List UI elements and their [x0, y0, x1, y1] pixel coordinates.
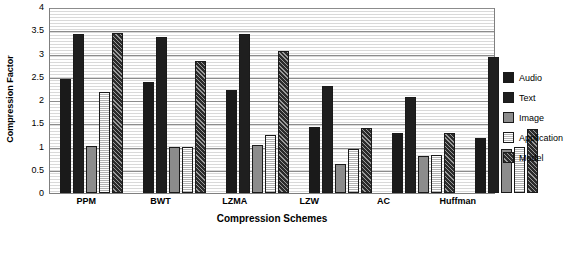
- bar[interactable]: [278, 51, 289, 193]
- bar[interactable]: [392, 133, 403, 193]
- x-tick-label: BWT: [124, 196, 198, 206]
- bar[interactable]: [169, 147, 180, 194]
- legend-item[interactable]: Text: [503, 92, 571, 103]
- x-tick-label: Huffman: [421, 196, 495, 206]
- bar-group: [216, 9, 299, 193]
- bar[interactable]: [431, 155, 442, 193]
- bar[interactable]: [309, 127, 320, 193]
- y-tick-label: 4: [12, 2, 44, 12]
- legend: AudioTextImageApplicationModel: [503, 72, 571, 172]
- legend-item[interactable]: Audio: [503, 72, 571, 83]
- bar[interactable]: [361, 128, 372, 193]
- y-tick-label: 0.5: [12, 165, 44, 175]
- chart-root: Compression Factor 00.511.522.533.54 PPM…: [0, 0, 573, 253]
- bar[interactable]: [86, 146, 97, 193]
- bar[interactable]: [182, 147, 193, 194]
- legend-label: Text: [519, 93, 536, 103]
- y-tick-label: 3: [12, 49, 44, 59]
- bar[interactable]: [73, 34, 84, 193]
- bar-group: [382, 9, 465, 193]
- bar[interactable]: [226, 90, 237, 193]
- legend-item[interactable]: Application: [503, 132, 571, 143]
- y-tick-label: 3.5: [12, 25, 44, 35]
- legend-item[interactable]: Model: [503, 152, 571, 163]
- legend-label: Application: [519, 133, 563, 143]
- x-axis-title: Compression Schemes: [49, 213, 495, 224]
- bar[interactable]: [475, 138, 486, 193]
- legend-label: Image: [519, 113, 544, 123]
- y-tick-label: 1.5: [12, 118, 44, 128]
- x-tick-label: LZMA: [198, 196, 272, 206]
- plot-background: [50, 9, 494, 193]
- bar[interactable]: [156, 37, 167, 193]
- bar[interactable]: [195, 61, 206, 193]
- y-tick-label: 1: [12, 142, 44, 152]
- bar[interactable]: [488, 57, 499, 193]
- x-tick-label: LZW: [272, 196, 346, 206]
- legend-item[interactable]: Image: [503, 112, 571, 123]
- bar[interactable]: [239, 34, 250, 193]
- bar-group: [299, 9, 382, 193]
- legend-swatch: [503, 72, 514, 83]
- bar[interactable]: [418, 156, 429, 193]
- legend-swatch: [503, 92, 514, 103]
- bar[interactable]: [112, 33, 123, 193]
- x-tick-label: PPM: [49, 196, 123, 206]
- plot-area: [49, 8, 495, 194]
- legend-label: Audio: [519, 73, 542, 83]
- bar-group: [133, 9, 216, 193]
- y-tick-label: 0: [12, 188, 44, 198]
- bar-group: [50, 9, 133, 193]
- legend-swatch: [503, 152, 514, 163]
- bar[interactable]: [265, 135, 276, 193]
- legend-swatch: [503, 112, 514, 123]
- bar[interactable]: [60, 79, 71, 193]
- bar[interactable]: [252, 145, 263, 193]
- bar[interactable]: [405, 97, 416, 193]
- bar[interactable]: [335, 164, 346, 193]
- bar[interactable]: [322, 86, 333, 193]
- legend-label: Model: [519, 153, 544, 163]
- bar-groups: [50, 9, 494, 193]
- y-tick-label: 2.5: [12, 72, 44, 82]
- bar[interactable]: [348, 149, 359, 193]
- bar[interactable]: [143, 82, 154, 193]
- legend-swatch: [503, 132, 514, 143]
- y-tick-label: 2: [12, 95, 44, 105]
- x-tick-label: AC: [347, 196, 421, 206]
- bar[interactable]: [99, 92, 110, 193]
- bar[interactable]: [444, 133, 455, 193]
